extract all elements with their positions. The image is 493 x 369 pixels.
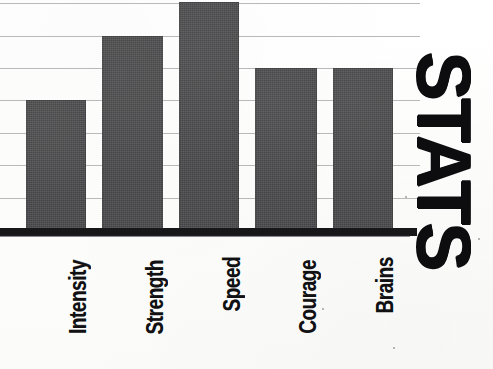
x-axis-baseline — [0, 228, 417, 236]
bar-speed[interactable] — [179, 2, 239, 230]
bar-strength[interactable] — [102, 36, 163, 230]
bar-courage[interactable] — [255, 68, 317, 230]
scan-speck — [322, 308, 324, 310]
bar-intensity[interactable] — [26, 100, 86, 230]
chart-title-text: STATS — [409, 52, 478, 269]
chart-title: STATS — [410, 52, 440, 242]
x-axis-label-brains: Brains — [373, 248, 399, 313]
x-axis-label-brains-text: Brains — [371, 257, 399, 313]
x-axis-label-speed-text: Speed — [218, 257, 246, 312]
bar-brains[interactable] — [333, 68, 393, 230]
x-axis-label-speed: Speed — [220, 248, 246, 312]
x-axis-label-strength: Strength — [143, 248, 169, 334]
x-axis-label-courage-text: Courage — [294, 260, 322, 334]
plot-area — [0, 0, 420, 236]
x-axis-label-courage: Courage — [296, 248, 322, 334]
chart-page: Intensity Strength Speed Courage Brains … — [0, 0, 493, 369]
x-axis-label-strength-text: Strength — [141, 260, 169, 334]
x-axis-label-intensity-text: Intensity — [64, 260, 92, 334]
chart-title-rotator: STATS — [410, 52, 478, 274]
scan-speck — [393, 347, 395, 349]
x-axis-label-intensity: Intensity — [66, 248, 92, 334]
